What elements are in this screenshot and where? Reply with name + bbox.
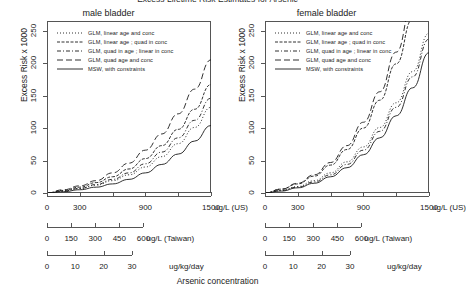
legend-item: GLM, linear age and conc (57, 28, 207, 37)
legend-item-label: GLM, linear age and conc (88, 30, 154, 36)
y-axis-tick (261, 31, 265, 32)
x-axis-tick-label: 0 (32, 262, 62, 271)
x-axis-line (47, 255, 132, 256)
x-axis-line (265, 196, 429, 197)
x-axis-tick-label: 900 (348, 203, 378, 212)
legend: GLM, linear age and concGLM, linear age … (57, 28, 207, 73)
x-axis-tick (178, 192, 179, 196)
y-axis-tick (261, 161, 265, 162)
legend-line-icon (57, 29, 83, 37)
legend-line-icon (57, 38, 83, 46)
legend-item: GLM, linear age ; quad in conc (57, 37, 207, 46)
x-axis-line (47, 196, 211, 197)
legend-line-icon (57, 56, 83, 64)
y-axis-tick (261, 96, 265, 97)
x-axis-tick (396, 192, 397, 196)
legend-item-label: GLM, linear age ; quad in conc (88, 39, 167, 45)
x-axis-unit-label: ug/L (Taiwan) (364, 234, 412, 243)
x-axis-tick (429, 192, 430, 196)
x-axis-title: Arsenic concentration (0, 276, 435, 286)
x-axis-tick-label: 0 (32, 203, 62, 212)
x-axis-unit-label: ug/L (US) (432, 203, 466, 212)
x-axis-tick (47, 251, 48, 255)
y-axis-tick (43, 63, 47, 64)
x-axis-tick (145, 192, 146, 196)
y-axis-tick (261, 128, 265, 129)
panel-title: male bladder (0, 8, 217, 18)
y-axis-tick-label: 0 (29, 182, 38, 204)
x-axis-tick (298, 192, 299, 196)
legend-item: GLM, quad age and conc (275, 55, 425, 64)
x-axis-tick (265, 251, 266, 255)
y-axis-tick (43, 31, 47, 32)
legend-item-label: GLM, quad in age ; linear in conc (88, 48, 173, 54)
y-axis-tick-label: 150 (247, 84, 256, 106)
x-axis-tick (47, 223, 48, 227)
x-axis-tick (75, 251, 76, 255)
y-axis-label: Excess Risk x 1000 (237, 0, 247, 135)
legend-line-icon (275, 47, 301, 55)
legend-item-label: GLM, quad in age ; linear in conc (306, 48, 391, 54)
legend-item-label: GLM, linear age and conc (306, 30, 372, 36)
x-axis-tick-label: 0 (250, 203, 280, 212)
y-axis-tick-label: 0 (247, 182, 256, 204)
x-axis-tick (289, 223, 290, 227)
x-axis-unit-label: ug/kg/day (169, 262, 204, 271)
x-axis-tick-label: 900 (130, 203, 160, 212)
legend-item-label: GLM, quad age and conc (88, 57, 153, 63)
y-axis-tick-label: 50 (29, 149, 38, 171)
x-axis-tick (104, 251, 105, 255)
legend-line-icon (57, 65, 83, 73)
y-axis-tick-label: 100 (29, 117, 38, 139)
y-axis-label: Excess Risk x 1000 (19, 0, 29, 135)
x-axis-line (265, 227, 361, 228)
x-axis-tick (47, 192, 48, 196)
legend-item: GLM, quad in age ; linear in conc (275, 46, 425, 55)
x-axis-unit-label: ug/L (Taiwan) (146, 234, 194, 243)
x-axis-tick (293, 251, 294, 255)
x-axis-line (265, 255, 350, 256)
x-axis-tick (211, 192, 212, 196)
x-axis-tick (265, 192, 266, 196)
legend-line-icon (275, 29, 301, 37)
x-axis-tick (363, 192, 364, 196)
y-axis-tick-label: 250 (29, 19, 38, 41)
y-axis-tick (261, 63, 265, 64)
x-axis-tick (331, 192, 332, 196)
legend: GLM, linear age and concGLM, linear age … (275, 28, 425, 73)
x-axis-tick (265, 223, 266, 227)
legend-line-icon (57, 47, 83, 55)
y-axis-tick-label: 200 (29, 52, 38, 74)
x-axis-tick (113, 192, 114, 196)
panel-title: female bladder (218, 8, 435, 18)
legend-line-icon (275, 56, 301, 64)
x-axis-tick (80, 192, 81, 196)
panel-female-bladder: female bladder Excess Risk x 1000 050100… (218, 0, 435, 293)
x-axis-tick (132, 251, 133, 255)
x-axis-unit-label: ug/kg/day (387, 262, 422, 271)
legend-item: GLM, linear age ; quad in conc (275, 37, 425, 46)
legend-item-label: MSW, with constraints (306, 66, 363, 72)
x-axis-tick-label: 20 (307, 262, 337, 271)
legend-item: MSW, with constraints (57, 64, 207, 73)
x-axis-tick (337, 223, 338, 227)
x-axis-tick (119, 223, 120, 227)
y-axis-tick-label: 100 (247, 117, 256, 139)
x-axis-tick-label: 30 (117, 262, 147, 271)
x-axis-tick (95, 223, 96, 227)
x-axis-tick (71, 223, 72, 227)
legend-item-label: GLM, linear age ; quad in conc (306, 39, 385, 45)
y-axis-tick (43, 96, 47, 97)
legend-item: GLM, quad age and conc (57, 55, 207, 64)
legend-line-icon (275, 38, 301, 46)
legend-line-icon (275, 65, 301, 73)
x-axis-tick-label: 30 (335, 262, 365, 271)
legend-item: GLM, quad in age ; linear in conc (57, 46, 207, 55)
x-axis-tick-label: 300 (283, 203, 313, 212)
y-axis-tick-label: 200 (247, 52, 256, 74)
y-axis-tick-label: 50 (247, 149, 256, 171)
x-axis-tick (350, 251, 351, 255)
legend-item-label: MSW, with constraints (88, 66, 145, 72)
x-axis-tick (322, 251, 323, 255)
